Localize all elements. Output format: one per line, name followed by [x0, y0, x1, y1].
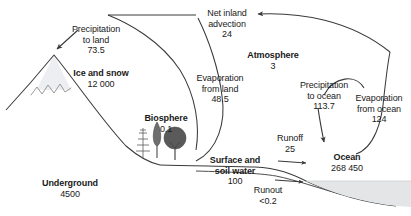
label-runoff: Runoff 25 [277, 133, 303, 154]
label-ocean: Ocean 268 450 [331, 152, 363, 173]
label-precipitation-to-land: Precipitation to land 73.5 [72, 24, 120, 56]
evaporation-from-land-name-line2: from land [197, 84, 244, 95]
biosphere-name: Biosphere [144, 113, 187, 124]
evaporation-from-land-value: 48.5 [197, 94, 244, 105]
label-biosphere: Biosphere 0.1 [144, 113, 187, 134]
evaporation-from-ocean-value: 124 [356, 114, 403, 125]
precipitation-to-ocean-downstroke [318, 108, 324, 142]
net-inland-advection-name-line2: advection [207, 19, 247, 30]
ice-and-snow-name: Ice and snow [73, 68, 128, 79]
underground-value: 4500 [42, 189, 98, 200]
label-net-inland-advection: Net inland advection 24 [207, 8, 247, 40]
biosphere-value: 0.1 [144, 124, 187, 135]
label-runout: Runout <0.2 [254, 185, 282, 206]
label-evaporation-from-ocean: Evaporation from ocean 124 [356, 93, 403, 125]
ocean-body [306, 181, 411, 207]
evaporation-from-ocean-name-line2: from ocean [356, 104, 403, 115]
precipitation-to-land-name-line2: to land [72, 35, 120, 46]
surface-and-soil-water-value: 100 [210, 176, 260, 187]
net-inland-advection-name-line1: Net inland [207, 8, 247, 19]
ocean-name: Ocean [331, 152, 363, 163]
ice-and-snow-value: 12 000 [73, 79, 128, 90]
precipitation-to-ocean-name-line1: Precipitation [300, 80, 348, 91]
precipitation-to-ocean-name-line2: to ocean [300, 91, 348, 102]
runoff-name: Runoff [277, 133, 303, 144]
runout-arrow [275, 180, 303, 182]
precipitation-to-land-name-line1: Precipitation [72, 24, 120, 35]
net-inland-advection-value: 24 [207, 29, 247, 40]
evaporation-from-land-name-line1: Evaporation [197, 73, 244, 84]
label-atmosphere: Atmosphere 3 [247, 50, 299, 71]
ocean-value: 268 450 [331, 163, 363, 174]
precipitation-to-land-value: 73.5 [72, 45, 120, 56]
atmosphere-value: 3 [247, 61, 299, 72]
label-precipitation-to-ocean: Precipitation to ocean 113.7 [300, 80, 348, 112]
surface-and-soil-water-name-line1: Surface and [210, 155, 260, 166]
mountain-icecap-fill [36, 55, 72, 92]
runout-value: <0.2 [254, 196, 282, 207]
label-evaporation-from-land: Evaporation from land 48.5 [197, 73, 244, 105]
atmosphere-name: Atmosphere [247, 50, 299, 61]
runoff-arrow [278, 161, 306, 163]
label-ice-and-snow: Ice and snow 12 000 [73, 68, 128, 89]
precipitation-to-ocean-value: 113.7 [300, 101, 348, 112]
runout-name: Runout [254, 185, 282, 196]
label-surface-and-soil-water: Surface and soil water 100 [210, 155, 260, 187]
evaporation-from-ocean-name-line1: Evaporation [356, 93, 403, 104]
ocean-fill [306, 181, 411, 207]
net-inland-advection-arrow [258, 14, 390, 52]
underground-name: Underground [42, 178, 98, 189]
water-cycle-diagram: Precipitation to land 73.5 Ice and snow … [0, 0, 411, 216]
label-underground: Underground 4500 [42, 178, 98, 199]
surface-and-soil-water-name-line2: soil water [210, 166, 260, 177]
runoff-value: 25 [277, 144, 303, 155]
